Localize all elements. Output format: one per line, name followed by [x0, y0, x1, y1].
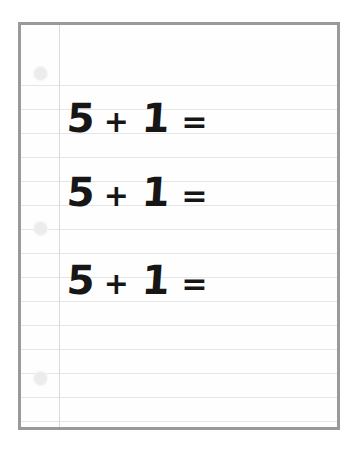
equation-right-operand: 1 — [141, 98, 172, 138]
equation-right-operand: 1 — [141, 260, 172, 300]
equation-operator-plus: + — [104, 102, 129, 142]
equation-row: 5 + 1 = — [67, 172, 207, 216]
notebook-paper: 5 + 1 = 5 + 1 = 5 + 1 = — [18, 22, 340, 430]
worksheet-root: 5 + 1 = 5 + 1 = 5 + 1 = — [0, 0, 358, 455]
equation-equals-sign: = — [181, 176, 207, 216]
equation-left-operand: 5 — [66, 98, 97, 138]
equation-left-operand: 5 — [66, 172, 97, 212]
equation-operator-plus: + — [104, 176, 129, 216]
equation-row: 5 + 1 = — [67, 98, 207, 142]
equation-equals-sign: = — [181, 264, 207, 304]
equation-equals-sign: = — [181, 102, 207, 142]
equation-row: 5 + 1 = — [67, 260, 207, 304]
equation-left-operand: 5 — [66, 260, 97, 300]
equation-right-operand: 1 — [141, 172, 172, 212]
equation-operator-plus: + — [104, 264, 129, 304]
paper-surface: 5 + 1 = 5 + 1 = 5 + 1 = — [21, 25, 337, 427]
equations-group: 5 + 1 = 5 + 1 = 5 + 1 = — [21, 25, 337, 427]
